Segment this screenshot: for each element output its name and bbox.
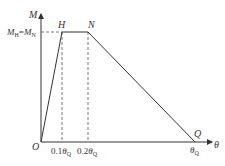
x-tick-theta-q: θQ [190,145,199,156]
point-q-label: Q [194,128,202,139]
x-axis-label: θ [214,139,219,150]
x-tick-0.1-theta-q: 0.1θQ [51,146,72,157]
origin-label: O [32,141,39,152]
y-axis-label: M [28,9,38,20]
y-tick-label: MH=MN [6,27,36,38]
moment-rotation-diagram: M θ O H N Q MH=MN 0.1θQ 0.2θQ θQ [0,0,225,166]
point-n-label: N [87,19,96,30]
x-tick-0.2-theta-q: 0.2θQ [77,146,98,157]
moment-rotation-curve [41,32,195,142]
point-h-label: H [57,19,66,30]
